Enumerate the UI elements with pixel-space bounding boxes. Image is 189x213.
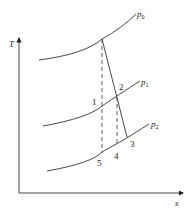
point-label-3: 3 [130,139,135,149]
point-label-4: 4 [114,151,119,161]
isobar-label-p1: p1 [140,77,149,88]
isobar-label-p0: p0 [136,9,145,20]
y-axis-label: T [9,39,15,49]
point-label-1: 1 [92,97,97,107]
isobar-label-p2: p2 [150,119,159,130]
point-label-2: 2 [119,82,124,92]
x-axis-label: s [175,198,179,208]
point-label-5: 5 [97,158,102,168]
ts-diagram: T s p0 p1 p2 1 2 3 4 5 [0,0,189,213]
isobar-p0 [39,14,136,60]
